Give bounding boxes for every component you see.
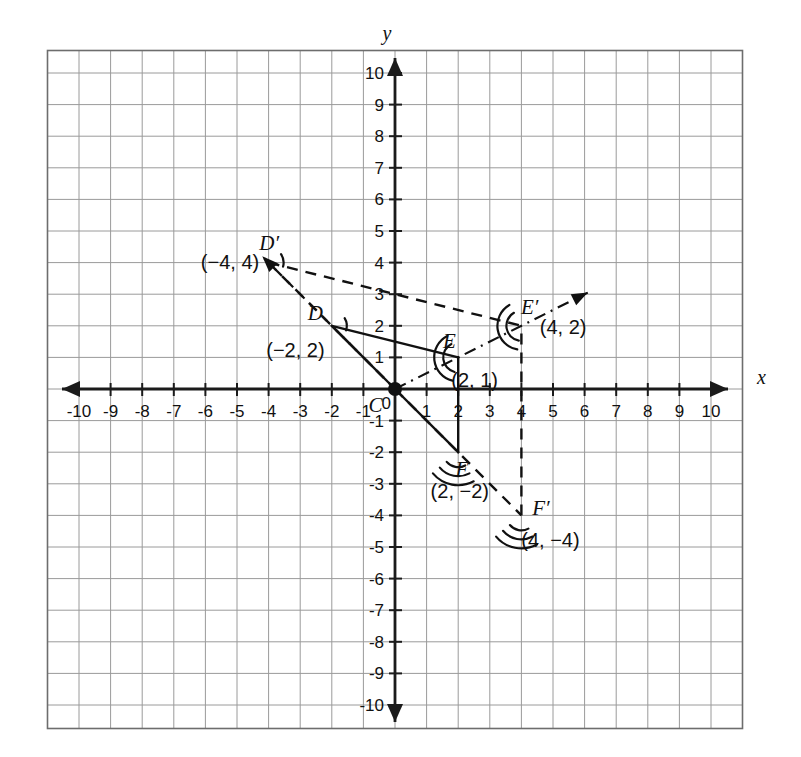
x-tick-label: -3 <box>293 402 308 421</box>
y-tick-label: -8 <box>369 633 384 652</box>
coordinate-plane-figure: -10-9-8-7-6-5-4-3-2-11234567891010987654… <box>0 0 801 757</box>
x-tick-label: 5 <box>548 402 557 421</box>
vertex-label-D-prime: D′ <box>258 231 279 255</box>
coord-label-D-prime: (−4, 4) <box>201 251 259 273</box>
y-tick-label: 1 <box>375 348 384 367</box>
vertex-label-E-prime: E′ <box>520 295 539 319</box>
y-axis-bottom-arrow <box>387 704 403 722</box>
y-tick-label: 10 <box>365 64 384 83</box>
vertex-label-D: D <box>307 301 323 325</box>
point-dot-C <box>388 382 402 396</box>
x-tick-label: 3 <box>485 402 494 421</box>
x-tick-label: 10 <box>702 402 721 421</box>
x-tick-label: -7 <box>166 402 181 421</box>
y-tick-label: -3 <box>369 475 384 494</box>
angle-arc-E-prime <box>506 313 518 341</box>
origin-tick-label: 0 <box>382 394 391 413</box>
vertex-label-E: E <box>442 329 456 353</box>
ray-arrowhead-ray-C-to-E-prime <box>571 293 588 306</box>
coord-label-F: (2, −2) <box>431 480 489 502</box>
y-tick-label: 6 <box>375 190 384 209</box>
vertex-label-F-prime: F′ <box>531 496 550 520</box>
y-axis-label: y <box>381 22 392 45</box>
y-tick-label: 4 <box>375 254 384 273</box>
coordinate-plane-svg: -10-9-8-7-6-5-4-3-2-11234567891010987654… <box>0 0 801 757</box>
x-tick-label: 6 <box>580 402 589 421</box>
angle-arc-D-prime <box>281 254 284 267</box>
y-tick-label: -7 <box>369 601 384 620</box>
x-tick-label: -9 <box>103 402 118 421</box>
x-tick-label: 8 <box>643 402 652 421</box>
x-tick-label: -10 <box>67 402 92 421</box>
x-tick-label: -5 <box>229 402 244 421</box>
y-tick-label: -10 <box>359 696 384 715</box>
y-tick-label: 9 <box>375 96 384 115</box>
coord-label-D: (−2, 2) <box>266 339 324 361</box>
x-axis-label: x <box>756 366 766 388</box>
y-tick-label: -5 <box>369 538 384 557</box>
vertex-label-F: F <box>455 457 469 481</box>
plotted-points <box>388 382 402 396</box>
y-tick-label: -9 <box>369 664 384 683</box>
y-tick-label: 3 <box>375 285 384 304</box>
coord-label-F-prime: (4, −4) <box>521 529 579 551</box>
x-tick-label: 7 <box>611 402 620 421</box>
x-tick-label: -4 <box>261 402 276 421</box>
vertex-label-C: C <box>368 393 383 417</box>
x-tick-label: -2 <box>324 402 339 421</box>
y-tick-label: -6 <box>369 570 384 589</box>
y-tick-label: 8 <box>375 127 384 146</box>
x-axis-left-arrow <box>62 381 80 397</box>
y-tick-label: -2 <box>369 443 384 462</box>
y-tick-label: 7 <box>375 159 384 178</box>
x-tick-label: 9 <box>675 402 684 421</box>
y-tick-label: -4 <box>369 506 384 525</box>
x-axis-right-arrow <box>710 381 728 397</box>
y-tick-label: 2 <box>375 317 384 336</box>
x-tick-label: -6 <box>198 402 213 421</box>
coord-label-E: (2, 1) <box>451 369 498 391</box>
y-tick-label: 5 <box>375 222 384 241</box>
coord-label-E-prime: (4, 2) <box>540 316 587 338</box>
x-tick-label: -8 <box>135 402 150 421</box>
